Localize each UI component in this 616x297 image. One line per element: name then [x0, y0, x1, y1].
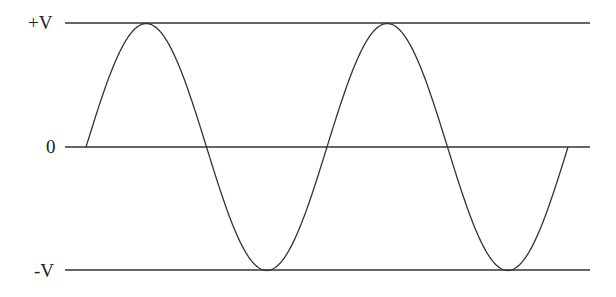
sine-wave-diagram [0, 0, 616, 297]
zero-label: 0 [46, 137, 56, 156]
negative-peak-label: -V [34, 261, 54, 280]
positive-peak-label: +V [28, 13, 52, 32]
